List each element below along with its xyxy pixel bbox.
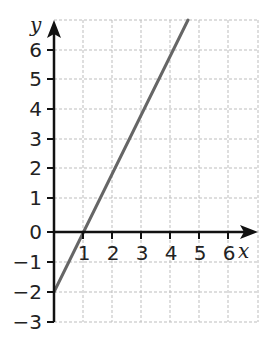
y-tick-label: 0	[29, 220, 42, 244]
x-tick-label: 1	[78, 241, 91, 265]
y-tick-label: 3	[29, 127, 42, 151]
y-axis-label: y	[29, 13, 42, 37]
y-tick-label: 1	[29, 186, 42, 210]
y-tick-labels: 6 5 4 3 2 1 0 −1 −2 −3	[13, 38, 42, 334]
y-tick-label: −1	[13, 250, 42, 274]
y-tick-label: 5	[29, 67, 42, 91]
y-tick-label: 2	[29, 156, 42, 180]
coordinate-graph: y x 6 5 4 3 2 1 0 −1 −2 −3 1 2 3 4 5 6	[0, 0, 268, 348]
y-axis	[47, 20, 61, 322]
y-tick-label: 6	[29, 38, 42, 62]
x-tick-label: 5	[194, 241, 207, 265]
y-tick-label: −2	[13, 280, 42, 304]
x-axis-label: x	[238, 239, 249, 263]
grid	[54, 20, 258, 322]
x-tick-label: 4	[165, 241, 178, 265]
x-tick-labels: 1 2 3 4 5 6	[78, 241, 236, 265]
x-tick-label: 6	[223, 241, 236, 265]
x-tick-label: 3	[136, 241, 149, 265]
y-tick-label: −3	[13, 310, 42, 334]
x-tick-label: 2	[107, 241, 120, 265]
y-tick-label: 4	[29, 97, 42, 121]
